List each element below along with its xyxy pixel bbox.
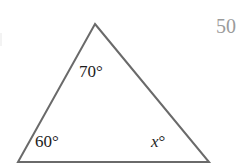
angle-label-bottom-right: x° (151, 133, 165, 150)
triangle-figure: 70° 60° x° 50 (0, 0, 251, 166)
angle-label-bottom-left: 60° (35, 133, 59, 150)
corner-number: 50 (216, 16, 236, 36)
angle-variable-x: x (151, 132, 159, 151)
angle-label-apex: 70° (79, 63, 103, 80)
degree-symbol: ° (159, 132, 166, 151)
